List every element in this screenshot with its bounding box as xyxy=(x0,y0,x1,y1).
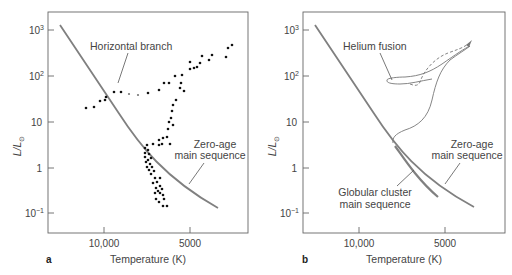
panel-b-globular-label-line2: main sequence xyxy=(339,198,410,210)
panel-b-ytick-100: 102 xyxy=(284,70,299,82)
panel-b-x-axis-label: Temperature (K) xyxy=(366,253,442,265)
panel-a-zams-curve xyxy=(60,25,218,208)
panel-a-zams-pointer xyxy=(189,163,204,184)
panel-b-evolution-track xyxy=(387,46,470,143)
panel-a-hb-pointer xyxy=(118,53,128,83)
panel-b-ytick-10: 10 xyxy=(286,117,298,128)
panel-b-letter: b xyxy=(302,254,308,265)
panel-b-y-axis-label: L/L⊙ xyxy=(266,136,280,157)
panel-a-ytick-10: 10 xyxy=(31,117,43,128)
panel-a-xtick-10000: 10,000 xyxy=(89,238,120,249)
panel-a-ytick-1: 1 xyxy=(36,163,42,174)
panel-b-ytick-0.1: 10−1 xyxy=(280,207,299,219)
panel-a-ytick-1000: 103 xyxy=(29,24,44,36)
panel-b-xtick-5000: 5000 xyxy=(434,238,457,249)
panel-b-y-ticks xyxy=(303,30,309,213)
panel-b-globular-label-line1: Globular cluster xyxy=(338,186,412,198)
panel-b-ytick-1000: 103 xyxy=(284,24,299,36)
panel-a-x-ticks xyxy=(104,227,190,233)
panel-b-ytick-1: 1 xyxy=(291,163,297,174)
panel-b-zams-label-line2: main sequence xyxy=(431,149,502,161)
panel-b-xtick-10000: 10,000 xyxy=(344,238,375,249)
panel-a-xtick-5000: 5000 xyxy=(179,238,202,249)
panel-a-star-dots xyxy=(85,44,234,208)
panel-b-track-arrow-icon xyxy=(466,40,472,47)
panel-b-zams-pointer xyxy=(445,163,460,184)
panel-b-globular-pointer xyxy=(397,170,414,186)
panel-a-ytick-0.1: 10−1 xyxy=(25,207,44,219)
panel-a-zams-label-line2: main sequence xyxy=(174,149,245,161)
panel-b-helium-fusion-label: Helium fusion xyxy=(343,40,407,52)
panel-b-evolution-track-dashed xyxy=(410,44,468,85)
panel-a-letter: a xyxy=(46,254,52,265)
chart-figure: 103 102 10 1 10−1 L/L⊙ 10,000 5000 Tempe… xyxy=(0,0,512,275)
panel-a-y-axis-label: L/L⊙ xyxy=(11,136,25,157)
panel-a-y-ticks xyxy=(48,30,54,213)
panel-a-x-axis-label: Temperature (K) xyxy=(110,253,186,265)
panel-a: 103 102 10 1 10−1 L/L⊙ 10,000 5000 Tempe… xyxy=(11,12,248,265)
panel-a-hb-label: Horizontal branch xyxy=(90,40,172,52)
panel-b-helium-pointer xyxy=(380,53,392,80)
panel-a-ytick-100: 102 xyxy=(29,70,44,82)
panel-b: 103 102 10 1 10−1 L/L⊙ 10,000 5000 Tempe… xyxy=(266,12,505,265)
panel-b-x-ticks xyxy=(359,227,445,233)
